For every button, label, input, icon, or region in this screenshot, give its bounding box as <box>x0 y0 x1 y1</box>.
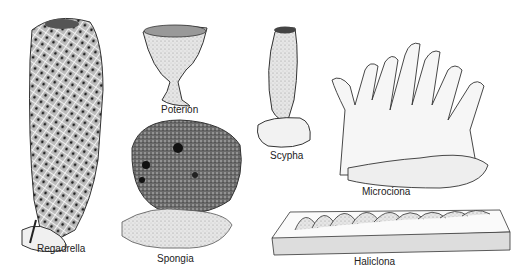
label-poterion: Poterion <box>161 104 198 115</box>
label-microciona: Microciona <box>362 186 410 197</box>
sponge-illustration-plate: Regadrella Poterion Spongia Scypha Micro… <box>0 0 519 278</box>
label-regadrella: Regadrella <box>37 243 85 254</box>
spongia-drawing <box>122 120 241 248</box>
regadrella-drawing <box>22 18 103 251</box>
label-scypha: Scypha <box>270 150 303 161</box>
label-haliclona: Haliclona <box>354 256 395 267</box>
scypha-drawing <box>257 27 310 148</box>
illustration-drawings <box>0 0 519 278</box>
poterion-drawing <box>143 25 207 106</box>
haliclona-drawing <box>272 210 510 255</box>
label-spongia: Spongia <box>157 253 194 264</box>
microciona-drawing <box>332 43 488 188</box>
